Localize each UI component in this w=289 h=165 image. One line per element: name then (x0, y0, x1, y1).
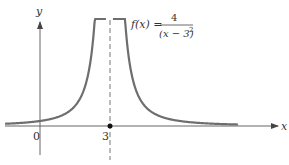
x-tick-label-0: 0 (33, 130, 40, 143)
function-label: f(x) = 4 (x − 3) 2 (130, 12, 194, 39)
function-graph: x y 0 3 f(x) = 4 (x − 3) 2 (0, 0, 289, 165)
curve-left-branch (5, 19, 106, 124)
x-axis-label: x (281, 120, 288, 133)
point-at-x-3 (108, 124, 113, 129)
function-exponent: 2 (189, 26, 193, 34)
function-numerator: 4 (171, 12, 177, 23)
x-tick-label-3: 3 (102, 130, 109, 143)
y-axis-label: y (35, 5, 43, 18)
function-prefix: f(x) = (130, 18, 163, 31)
